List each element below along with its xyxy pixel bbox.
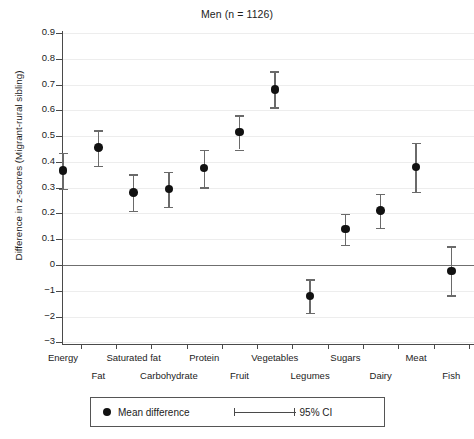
gridline bbox=[63, 291, 474, 292]
y-axis-tick-label: 0.9 bbox=[3, 27, 55, 37]
x-axis-tick-label: Protein bbox=[189, 352, 219, 363]
y-axis-tick-label: 0.1 bbox=[3, 233, 55, 243]
y-axis-tick-label: −1 bbox=[3, 285, 55, 295]
gridline bbox=[63, 188, 474, 189]
mean-difference-marker bbox=[376, 206, 385, 215]
confidence-interval-cap bbox=[200, 150, 209, 151]
x-axis-tick-label: Vegetables bbox=[251, 352, 298, 363]
mean-difference-marker bbox=[59, 166, 68, 175]
y-axis-tick-label: 0.3 bbox=[3, 182, 55, 192]
gridline bbox=[63, 162, 474, 163]
gridline bbox=[63, 213, 474, 214]
confidence-interval-cap bbox=[341, 214, 350, 215]
confidence-interval-cap bbox=[341, 245, 350, 246]
y-axis-tick-label: 0.2 bbox=[3, 207, 55, 217]
x-axis-tick bbox=[328, 344, 329, 349]
y-axis-tick-label: 0.7 bbox=[3, 79, 55, 89]
confidence-interval-cap bbox=[306, 313, 315, 314]
confidence-interval-cap bbox=[59, 153, 68, 154]
x-axis-tick bbox=[81, 344, 82, 349]
mean-difference-marker bbox=[129, 188, 138, 197]
confidence-interval-cap bbox=[129, 211, 138, 212]
x-axis-tick-label: Fruit bbox=[230, 370, 249, 381]
mean-difference-marker bbox=[165, 185, 174, 194]
x-axis-tick bbox=[151, 344, 152, 349]
confidence-interval-cap bbox=[164, 207, 173, 208]
x-axis-tick-label: Carbohydrate bbox=[140, 370, 198, 381]
legend-item-mean-difference: Mean difference bbox=[103, 407, 190, 418]
legend-item-confidence-interval: 95% CI bbox=[232, 407, 333, 418]
mean-difference-marker bbox=[271, 85, 280, 94]
x-axis-tick bbox=[363, 344, 364, 349]
x-axis-tick bbox=[187, 344, 188, 349]
confidence-interval-cap bbox=[270, 71, 279, 72]
x-axis-tick-label: Fish bbox=[442, 370, 460, 381]
mean-difference-marker bbox=[306, 292, 315, 301]
confidence-interval-cap bbox=[412, 192, 421, 193]
confidence-interval-cap bbox=[235, 150, 244, 151]
legend-label-ci: 95% CI bbox=[300, 407, 333, 418]
gridline bbox=[63, 110, 474, 111]
y-axis-tick-label: 0.5 bbox=[3, 130, 55, 140]
confidence-interval-cap bbox=[59, 189, 68, 190]
gridline bbox=[63, 85, 474, 86]
confidence-interval-cap bbox=[447, 295, 456, 296]
confidence-interval-cap bbox=[129, 174, 138, 175]
confidence-interval-cap bbox=[200, 187, 209, 188]
x-axis-tick bbox=[469, 344, 470, 349]
confidence-interval-cap bbox=[270, 107, 279, 108]
confidence-interval-cap bbox=[447, 246, 456, 247]
x-axis-tick bbox=[398, 344, 399, 349]
confidence-interval-cap bbox=[235, 115, 244, 116]
confidence-interval-cap bbox=[412, 143, 421, 144]
y-axis-tick-label: −3 bbox=[3, 336, 55, 346]
x-axis-tick bbox=[292, 344, 293, 349]
confidence-interval-cap bbox=[164, 172, 173, 173]
x-axis-tick bbox=[222, 344, 223, 349]
legend-label-mean-difference: Mean difference bbox=[118, 407, 190, 418]
confidence-interval-cap bbox=[94, 166, 103, 167]
confidence-interval-cap bbox=[306, 279, 315, 280]
x-axis-tick bbox=[257, 344, 258, 349]
gridline bbox=[63, 59, 474, 60]
mean-difference-marker bbox=[341, 225, 350, 234]
mean-difference-marker bbox=[447, 267, 456, 276]
chart-legend: Mean difference 95% CI bbox=[90, 397, 385, 427]
gridline bbox=[63, 33, 474, 34]
x-axis-tick-label: Dairy bbox=[370, 370, 392, 381]
confidence-interval-cap bbox=[94, 130, 103, 131]
y-axis-tick-label: 0.4 bbox=[3, 156, 55, 166]
confidence-interval-cap bbox=[376, 194, 385, 195]
chart-title: Men (n = 1126) bbox=[0, 8, 474, 20]
x-axis-tick-label: Legumes bbox=[291, 370, 330, 381]
mean-difference-marker bbox=[412, 163, 421, 172]
mean-difference-marker bbox=[94, 143, 103, 152]
x-axis-tick bbox=[116, 344, 117, 349]
x-axis-tick-label: Meat bbox=[405, 352, 426, 363]
gridline bbox=[63, 239, 474, 240]
x-axis-tick-label: Sugars bbox=[330, 352, 360, 363]
zero-reference-line bbox=[63, 265, 474, 266]
x-axis-line bbox=[62, 344, 474, 345]
chart-figure: Men (n = 1126) Difference in z-scores (M… bbox=[0, 0, 474, 439]
y-axis-tick-label: 0 bbox=[3, 259, 55, 269]
x-axis-tick bbox=[434, 344, 435, 349]
x-axis-tick-label: Energy bbox=[48, 352, 78, 363]
y-axis-tick-label: 0.6 bbox=[3, 104, 55, 114]
error-bar-icon bbox=[232, 407, 298, 417]
x-axis-tick-label: Fat bbox=[91, 370, 105, 381]
y-axis-tick-label: −2 bbox=[3, 311, 55, 321]
confidence-interval-cap bbox=[376, 228, 385, 229]
filled-circle-icon bbox=[103, 408, 111, 416]
x-axis-tick-label: Saturated fat bbox=[106, 352, 160, 363]
gridline bbox=[63, 317, 474, 318]
gridline bbox=[63, 136, 474, 137]
y-axis-tick-labels: 0.90.80.70.60.50.40.30.20.10−1−2−3 bbox=[0, 0, 55, 439]
mean-difference-marker bbox=[200, 164, 209, 173]
y-axis-tick-label: 0.8 bbox=[3, 53, 55, 63]
